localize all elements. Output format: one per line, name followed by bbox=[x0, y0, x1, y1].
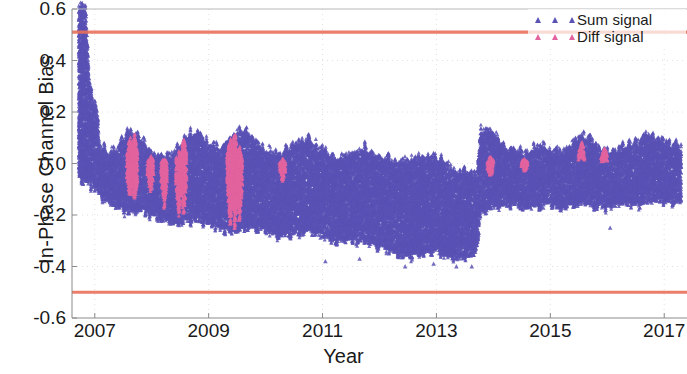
chart-legend: Sum signal Diff signal bbox=[528, 9, 686, 47]
outlier-marker bbox=[403, 264, 408, 268]
y-axis-tick: 0.2 bbox=[10, 101, 66, 123]
outlier-marker bbox=[357, 256, 362, 260]
legend-label-diff-signal: Diff signal bbox=[577, 28, 644, 45]
legend-item-diff-signal[interactable]: Diff signal bbox=[528, 28, 686, 45]
chart-figure: In-Phase Channel Bias Year -0.6-0.4-0.20… bbox=[0, 0, 687, 374]
y-axis-tick: 0.6 bbox=[10, 0, 66, 20]
y-axis-tick: -0.4 bbox=[10, 256, 66, 278]
plot-canvas bbox=[0, 0, 687, 374]
x-axis-tick: 2017 bbox=[643, 320, 685, 342]
legend-marker-sum-signal bbox=[528, 17, 577, 23]
y-axis-tick: -0.2 bbox=[10, 204, 66, 226]
y-axis-tick: 0.4 bbox=[10, 50, 66, 72]
legend-marker-diff-signal bbox=[528, 34, 577, 40]
x-axis-tick: 2009 bbox=[188, 320, 230, 342]
x-axis-tick: 2007 bbox=[74, 320, 116, 342]
x-axis-label: Year bbox=[0, 345, 687, 368]
y-axis-tick-group: -0.6-0.4-0.20.00.20.40.6 bbox=[0, 0, 66, 374]
outlier-marker bbox=[469, 264, 474, 268]
x-axis-tick: 2013 bbox=[415, 320, 457, 342]
outlier-marker bbox=[323, 259, 328, 263]
x-axis-tick: 2011 bbox=[302, 320, 343, 342]
outlier-marker bbox=[608, 225, 613, 229]
legend-item-sum-signal[interactable]: Sum signal bbox=[528, 11, 686, 28]
x-axis-tick: 2015 bbox=[529, 320, 571, 342]
legend-label-sum-signal: Sum signal bbox=[577, 11, 652, 28]
y-axis-tick: -0.6 bbox=[10, 307, 66, 329]
y-axis-tick: 0.0 bbox=[10, 153, 66, 175]
outlier-marker bbox=[431, 262, 436, 266]
